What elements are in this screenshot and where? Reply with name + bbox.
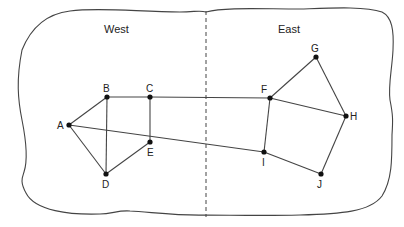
edge-d-e xyxy=(106,142,150,174)
node-label-b: B xyxy=(103,83,110,94)
node-g xyxy=(313,54,318,59)
node-label-c: C xyxy=(146,83,153,94)
edge-f-i xyxy=(264,98,270,152)
node-label-e: E xyxy=(147,147,154,158)
region-label-east: East xyxy=(278,23,300,35)
node-d xyxy=(103,171,108,176)
node-e xyxy=(147,139,152,144)
edge-c-f xyxy=(150,97,270,98)
node-label-f: F xyxy=(261,84,267,95)
edges-group xyxy=(69,57,346,174)
edge-a-b xyxy=(69,97,107,125)
node-i xyxy=(261,149,266,154)
region-label-west: West xyxy=(104,23,129,35)
edge-f-h xyxy=(270,98,346,116)
node-label-j: J xyxy=(317,179,322,190)
node-label-a: A xyxy=(57,120,64,131)
edge-h-j xyxy=(321,116,346,174)
edge-b-d xyxy=(106,97,107,174)
edge-a-d xyxy=(69,125,106,174)
node-j xyxy=(318,171,323,176)
node-label-h: H xyxy=(350,111,357,122)
edge-g-h xyxy=(316,57,346,116)
node-c xyxy=(147,94,152,99)
node-a xyxy=(66,122,71,127)
node-b xyxy=(104,94,109,99)
edge-i-j xyxy=(264,152,321,174)
edge-f-g xyxy=(270,57,316,98)
node-label-g: G xyxy=(311,43,319,54)
node-f xyxy=(267,95,272,100)
region-labels: WestEast xyxy=(104,23,300,35)
graph-diagram: ABCDEFGHIJ WestEast xyxy=(0,0,404,227)
edge-a-i xyxy=(69,125,264,152)
node-h xyxy=(343,113,348,118)
node-label-i: I xyxy=(262,157,265,168)
diagram-canvas: ABCDEFGHIJ WestEast xyxy=(0,0,404,227)
node-label-d: D xyxy=(102,179,109,190)
